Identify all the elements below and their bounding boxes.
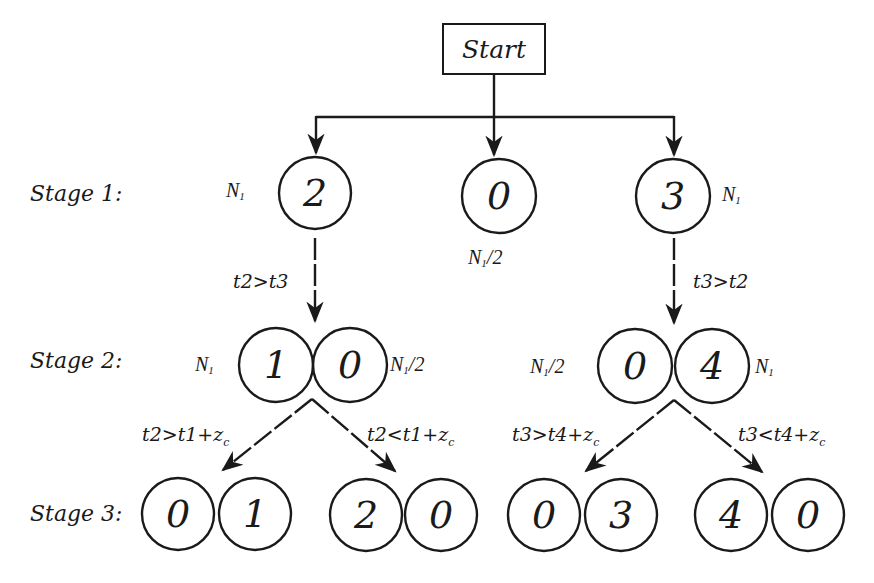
condition-t3-lt-t4-plus-zc: t3<t4+zc: [738, 425, 825, 448]
condition-subscript: c: [819, 436, 825, 449]
stage2-right-value-0: 0: [598, 329, 672, 403]
stage2-right-node0-annotation: N1/2: [530, 356, 564, 378]
stage2-left-value-0: 0: [313, 328, 387, 402]
stage1-value-0: 0: [462, 159, 536, 233]
start-label: Start: [462, 35, 526, 64]
stage1-center-annotation: N1/2: [468, 247, 502, 269]
stage3-pair3-value-a: 0: [507, 478, 581, 552]
stage-1-label: Stage 1:: [30, 183, 123, 205]
start-node: Start: [442, 23, 546, 75]
stage3-pair1-value-a: 0: [141, 477, 215, 551]
n-suffix: /2: [549, 355, 565, 377]
n-suffix: /2: [487, 246, 503, 268]
n-subscript: 1: [768, 366, 774, 378]
condition-subscript: c: [448, 436, 454, 449]
condition-text: t3<t4+z: [738, 423, 819, 445]
condition-t2-gt-t1-plus-zc: t2>t1+zc: [142, 425, 229, 448]
game-tree-diagram: Start Stage 1: Stage 2: Stage 3: 2 0 3 N…: [0, 0, 874, 583]
n-calligraphic: N: [468, 246, 481, 268]
condition-subscript: c: [223, 436, 229, 449]
n-subscript: 1: [239, 190, 245, 202]
n-subscript: 1: [735, 194, 741, 206]
stage2-left-node0-annotation: N1/2: [390, 354, 424, 376]
n-calligraphic: N: [755, 355, 768, 377]
n-subscript: 1: [208, 364, 214, 376]
condition-t2-lt-t1-plus-zc: t2<t1+zc: [367, 425, 454, 448]
stage3-pair3-value-b: 3: [584, 478, 658, 552]
stage2-left-value-1: 1: [239, 328, 313, 402]
condition-text: t2<t1+z: [367, 423, 448, 445]
stage3-pair2-value-a: 2: [329, 478, 403, 552]
condition-t3-gt-t2: t3>t2: [693, 272, 748, 291]
n-calligraphic: N: [195, 353, 208, 375]
n-calligraphic: N: [722, 183, 735, 205]
stage1-left-annotation: N1: [226, 180, 245, 202]
condition-t2-gt-t3: t2>t3: [233, 272, 288, 291]
condition-text: t2>t1+z: [142, 423, 223, 445]
stage-2-label: Stage 2:: [30, 350, 123, 372]
stage2-right-node4-annotation: N1: [755, 356, 774, 378]
stage3-pair4-value-b: 0: [771, 478, 845, 552]
n-suffix: /2: [409, 353, 425, 375]
stage2-left-node1-annotation: N1: [195, 354, 214, 376]
stage1-value-2: 2: [278, 156, 352, 230]
stage3-pair1-value-b: 1: [218, 477, 292, 551]
n-calligraphic: N: [226, 179, 239, 201]
stage2-right-value-4: 4: [675, 329, 749, 403]
stage1-value-3: 3: [636, 159, 710, 233]
condition-subscript: c: [593, 436, 599, 449]
stage3-pair2-value-b: 0: [404, 478, 478, 552]
stage3-pair4-value-a: 4: [694, 478, 768, 552]
stage1-right-annotation: N1: [722, 184, 741, 206]
condition-t3-gt-t4-plus-zc: t3>t4+zc: [512, 425, 599, 448]
n-calligraphic: N: [530, 355, 543, 377]
n-calligraphic: N: [390, 353, 403, 375]
condition-text: t3>t4+z: [512, 423, 593, 445]
dashed-arrow-left-left: [223, 399, 312, 470]
stage-3-label: Stage 3:: [30, 503, 123, 525]
